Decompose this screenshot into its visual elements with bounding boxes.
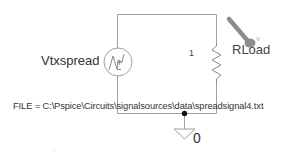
ground-net-label[interactable]: 0	[193, 131, 201, 145]
source-file-attribute[interactable]: FILE = C:\Pspice\Circuits\signalsources\…	[13, 102, 263, 111]
resistor-rload[interactable]	[212, 44, 221, 82]
junction-dot	[182, 111, 187, 116]
artifact-dot	[54, 150, 55, 151]
probe-stick-icon	[229, 19, 247, 40]
wire-top[interactable]	[118, 15, 217, 49]
voltage-source-vtxspread[interactable]: +	[104, 48, 132, 76]
ground-symbol-icon[interactable]	[174, 129, 195, 139]
resistor-name-label[interactable]: RLoad	[232, 43, 270, 56]
resistor-value-label[interactable]: 1	[189, 49, 194, 58]
resistor-zigzag-icon	[212, 44, 221, 82]
source-name-label[interactable]: Vtxspread	[41, 54, 100, 67]
schematic-canvas: + V	[0, 0, 292, 157]
plus-sign-icon: +	[117, 58, 122, 68]
wires	[118, 15, 217, 130]
